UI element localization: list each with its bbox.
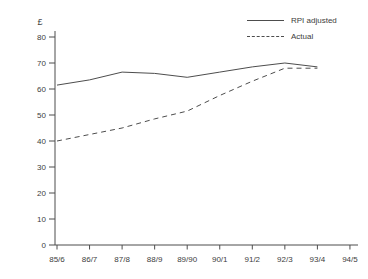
y-tick-label: 70 [37,59,46,68]
series-line-rpi-adjusted [57,63,317,85]
x-tick-label: 91/2 [245,255,261,264]
legend-row-actual: Actual [247,31,337,41]
chart-canvas: 0102030405060708085/686/787/888/989/9090… [0,0,368,279]
y-tick-label: 50 [37,111,46,120]
x-tick-label: 94/5 [342,255,358,264]
y-tick-label: 60 [37,85,46,94]
y-axis-currency-label: £ [31,17,49,27]
y-tick-label: 0 [42,241,47,250]
x-tick-label: 92/3 [277,255,293,264]
y-tick-label: 10 [37,215,46,224]
legend-label-rpi-adjusted: RPI adjusted [291,16,337,25]
x-tick-label: 85/6 [49,255,65,264]
x-tick-label: 89/90 [177,255,198,264]
x-tick-label: 88/9 [147,255,163,264]
legend-label-actual: Actual [291,32,313,41]
y-tick-label: 20 [37,189,46,198]
legend-solid-line-swatch [247,20,284,21]
y-tick-label: 30 [37,163,46,172]
x-tick-label: 86/7 [82,255,98,264]
legend-row-rpi-adjusted: RPI adjusted [247,15,337,25]
legend: RPI adjusted Actual [247,15,337,41]
series-line-actual [57,68,317,141]
legend-dashed-line-swatch [247,36,284,37]
x-tick-label: 90/1 [212,255,228,264]
y-tick-label: 80 [37,33,46,42]
y-tick-label: 40 [37,137,46,146]
x-tick-label: 93/4 [310,255,326,264]
x-tick-label: 87/8 [114,255,130,264]
line-chart-figure: 0102030405060708085/686/787/888/989/9090… [0,0,368,279]
